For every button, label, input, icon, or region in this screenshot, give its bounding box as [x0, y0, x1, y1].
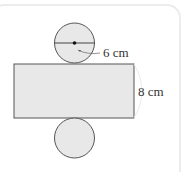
lateral-surface-rect: [14, 64, 134, 118]
diameter-label: 6 cm: [103, 45, 129, 60]
height-label: 8 cm: [138, 84, 164, 99]
center-point: [73, 41, 77, 45]
bottom-base-circle: [55, 118, 95, 158]
cylinder-net-diagram: 6 cm 8 cm: [0, 0, 185, 172]
